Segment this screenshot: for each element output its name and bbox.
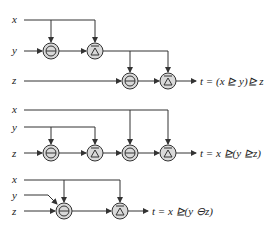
- input-y-label: y: [11, 121, 17, 133]
- input-x-label: x: [11, 13, 17, 25]
- ominus-operator-icon: [43, 43, 59, 59]
- output-formula: t = x ⊵(y ⊖z): [152, 205, 213, 218]
- input-y-label: y: [11, 189, 17, 201]
- bar-triangle-operator-icon: [87, 145, 103, 161]
- ominus-operator-icon: [43, 145, 59, 161]
- diagram-2: x y z t = x ⊵(y ⊵z): [11, 103, 261, 161]
- ominus-operator-icon: [122, 73, 138, 89]
- circuit-diagrams: x y z t = (x ⊵ y)⊵ z x y z: [0, 0, 278, 233]
- diagram-3: x y z t = x ⊵(y ⊖z): [11, 173, 213, 219]
- input-z-label: z: [11, 205, 17, 217]
- output-formula: t = x ⊵(y ⊵z): [200, 147, 261, 160]
- ominus-operator-icon: [56, 203, 72, 219]
- bar-triangle-operator-icon: [112, 203, 128, 219]
- bar-triangle-operator-icon: [87, 43, 103, 59]
- output-formula: t = (x ⊵ y)⊵ z: [200, 75, 264, 88]
- ominus-operator-icon: [122, 145, 138, 161]
- bar-triangle-operator-icon: [160, 145, 176, 161]
- bar-triangle-operator-icon: [160, 73, 176, 89]
- input-z-label: z: [11, 74, 17, 86]
- input-z-label: z: [11, 147, 17, 159]
- input-x-label: x: [11, 103, 17, 115]
- diagram-1: x y z t = (x ⊵ y)⊵ z: [11, 13, 264, 89]
- wire-y-to-op1: [24, 195, 57, 204]
- input-y-label: y: [11, 44, 17, 56]
- input-x-label: x: [11, 173, 17, 185]
